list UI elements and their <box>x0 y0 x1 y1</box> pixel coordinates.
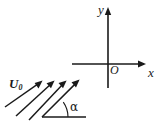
velocity-subscript: 0 <box>18 83 22 92</box>
velocity-symbol: U <box>9 76 18 91</box>
diagram-canvas <box>0 0 166 127</box>
angle-label: α <box>70 101 78 113</box>
origin-label: O <box>110 64 119 76</box>
coordinate-axes <box>72 7 146 88</box>
y-axis-label: y <box>98 3 104 16</box>
flow-arrowhead-icon <box>35 81 43 89</box>
freestream-velocity-label: U0 <box>9 77 22 92</box>
flow-diagram-figure: y x O U0 α <box>0 0 166 127</box>
x-axis-label: x <box>148 66 154 79</box>
x-axis <box>72 61 146 68</box>
y-axis-arrowhead-icon <box>105 7 111 15</box>
x-axis-arrowhead-icon <box>138 61 146 68</box>
angle-arc <box>63 102 68 117</box>
